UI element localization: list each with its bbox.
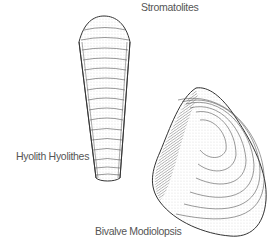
fossil-illustration: Stromatolites Hyolith Hyolithes Bivalve … — [0, 0, 270, 250]
bivalve-label: Bivalve Modiolopsis — [95, 225, 182, 237]
hyolith-label: Hyolith Hyolithes — [16, 150, 89, 162]
fossil-drawings — [0, 0, 270, 250]
stromatolites-label: Stromatolites — [141, 1, 198, 13]
bivalve-shell-drawing — [152, 88, 266, 236]
